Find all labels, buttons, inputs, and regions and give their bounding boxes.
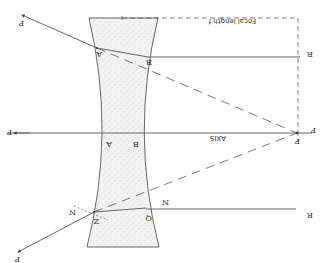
normal-left-label: N bbox=[69, 208, 76, 217]
axis-left-label: P bbox=[6, 128, 12, 137]
focus-label: F bbox=[294, 137, 300, 146]
upper-entry-label: A bbox=[96, 50, 103, 59]
focus-point bbox=[296, 132, 298, 134]
lower-ray-out-label: R bbox=[306, 211, 313, 220]
lower-ray-in-label: P bbox=[14, 255, 20, 263]
lower-ray-incident bbox=[18, 212, 94, 252]
normal-right-label: N bbox=[162, 198, 169, 207]
lower-exit-label: Q bbox=[145, 214, 152, 223]
upper-ray-out-label: R bbox=[306, 50, 313, 59]
axis-label: AXIS bbox=[209, 134, 226, 142]
lower-entry-point bbox=[93, 211, 95, 213]
upper-ray-in-label: P bbox=[18, 19, 24, 28]
focal-length-label: Focal length f bbox=[208, 17, 256, 25]
upper-ray-incident bbox=[22, 15, 97, 48]
upper-entry-point bbox=[96, 47, 98, 49]
lower-entry-label: Z bbox=[93, 217, 99, 226]
upper-exit-label: B bbox=[146, 58, 152, 67]
axis-lens-left-label: A bbox=[106, 140, 113, 149]
focus-outer-label: F bbox=[310, 126, 316, 135]
axis-lens-right-label: B bbox=[133, 140, 139, 149]
concave-lens-diagram: Focal length f AXIS F F P A B R P A B P … bbox=[0, 0, 327, 263]
